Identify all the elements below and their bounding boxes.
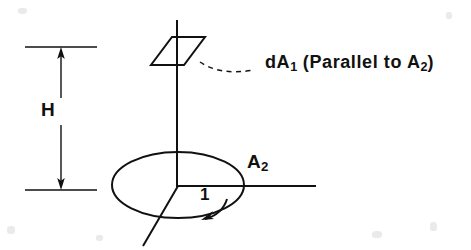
- base-area-label: A2: [247, 152, 268, 173]
- radial-ray: [143, 186, 178, 246]
- differential-area-note: (Parallel to A: [297, 52, 420, 72]
- height-dimension-label: H: [41, 100, 55, 119]
- differential-area-note-close: ): [428, 52, 435, 72]
- differential-area-note-subscript: 2: [421, 60, 428, 74]
- dashed-leader-line: [200, 62, 254, 72]
- differential-area-label: dA1 (Parallel to A2): [265, 53, 434, 73]
- height-dimension-group: [25, 47, 97, 190]
- figure-canvas: H dA1 (Parallel to A2) A2 1: [0, 0, 471, 250]
- diagram-vector-layer: [0, 0, 471, 250]
- angle-label: 1: [200, 186, 209, 203]
- base-area-subscript: 2: [261, 159, 268, 174]
